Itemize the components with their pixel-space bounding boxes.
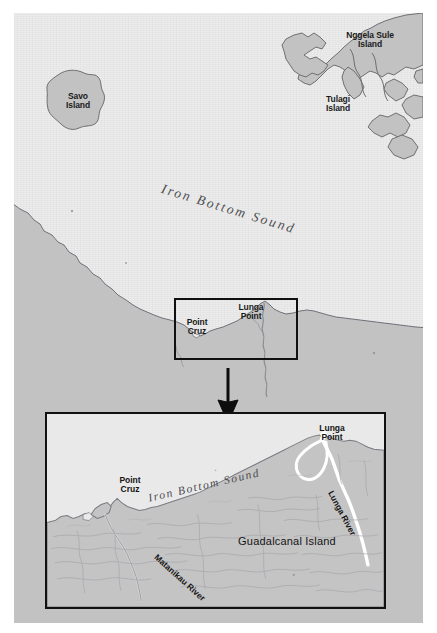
label-savo-island: Savo Island: [50, 92, 106, 110]
reef-speck-3: [373, 352, 375, 354]
label-nggela-sule-island: Nggela Sule Island: [329, 31, 411, 49]
reef-speck-1: [71, 210, 73, 212]
label-tulagi-island: Tulagi Island: [310, 95, 366, 113]
label-lunga-point-detail: Lunga Point: [309, 424, 355, 442]
label-guadalcanal-island: Guadalcanal Island: [222, 536, 352, 548]
detail-speck-1: [293, 574, 295, 576]
nggela-fragment-se: [368, 113, 410, 137]
nggela-fragment-tiny: [414, 69, 423, 83]
nggela-fragment-s: [388, 135, 418, 159]
detail-map-geometry: [47, 414, 384, 607]
detail-speck-2: [215, 469, 217, 471]
label-point-cruz-detail: Point Cruz: [107, 476, 153, 494]
detail-map: Iron Bottom Sound Point Cruz Lunga Point…: [45, 412, 386, 609]
nggela-fragment-e2: [402, 95, 423, 119]
map-figure: Savo Island Nggela Sule Island Tulagi Is…: [0, 0, 437, 633]
nggela-peninsula-west: [282, 33, 328, 77]
detail-area-rectangle: [174, 298, 298, 360]
nggela-fragment-e1: [384, 79, 408, 101]
reef-speck-2: [125, 262, 127, 264]
